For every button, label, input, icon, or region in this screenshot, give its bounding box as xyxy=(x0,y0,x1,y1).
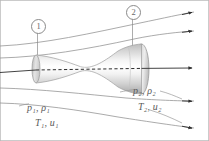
leader-p2-right xyxy=(160,91,182,99)
arrow-upper-inner xyxy=(182,31,192,32)
streamline-upper-inner xyxy=(0,31,194,58)
inlet-pressure-density-label: p₁, ρ₁ xyxy=(27,102,50,113)
arrow-upper-outer xyxy=(182,12,192,14)
streamline-lower-inner xyxy=(0,88,194,101)
axis-inlet-segment xyxy=(0,70,36,73)
nozzle-inlet-face xyxy=(32,55,40,83)
outlet-pressure-density-label: p₂, ρ₂ xyxy=(133,85,156,96)
nozzle-flow-figure: 1 2 p₁, ρ₁ T₁, u₁ p₂, ρ₂ T₂, u₂ xyxy=(0,0,209,141)
station-marker-2: 2 xyxy=(126,5,141,20)
figure-canvas xyxy=(0,0,209,141)
station-marker-1: 1 xyxy=(31,19,46,34)
streamline-arrowheads xyxy=(182,12,192,128)
streamline-upper-outer xyxy=(0,12,194,46)
inlet-temperature-velocity-label: T₁, u₁ xyxy=(35,117,59,128)
outlet-temperature-velocity-label: T₂, u₂ xyxy=(138,101,162,112)
